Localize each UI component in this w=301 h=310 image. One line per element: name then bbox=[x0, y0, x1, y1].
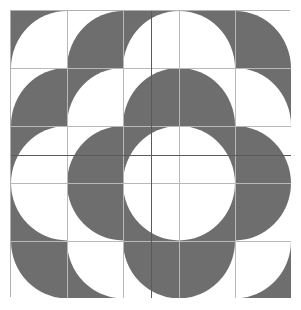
tile-r3-c1 bbox=[67, 183, 123, 240]
quarter-circle-arc bbox=[67, 68, 123, 125]
tile-r2-c1 bbox=[67, 126, 123, 183]
tile-r0-c2 bbox=[123, 11, 179, 68]
tile-r2-c0 bbox=[11, 126, 67, 183]
tile-r1-c0 bbox=[11, 68, 67, 125]
quarter-circle-arc bbox=[179, 11, 235, 68]
quarter-circle-arc bbox=[179, 126, 235, 183]
quarter-circle-arc bbox=[11, 241, 67, 298]
quarter-circle-arc bbox=[123, 241, 179, 298]
pattern-canvas bbox=[0, 0, 301, 310]
tile-r3-c0 bbox=[11, 183, 67, 240]
tile-r3-c2 bbox=[123, 183, 179, 240]
tile-r0-c0 bbox=[11, 11, 67, 68]
quarter-circle-arc bbox=[67, 183, 123, 240]
quarter-circle-arc bbox=[67, 11, 123, 68]
quarter-circle-arc bbox=[235, 11, 291, 68]
quarter-circle-arc bbox=[123, 68, 179, 125]
quarter-circle-arc bbox=[235, 183, 291, 240]
tile-r0-c4 bbox=[235, 11, 291, 68]
pattern-grid bbox=[10, 10, 290, 297]
quarter-circle-arc bbox=[235, 126, 291, 183]
tile-r4-c3 bbox=[179, 241, 235, 298]
tile-r1-c4 bbox=[235, 68, 291, 125]
tile-r1-c3 bbox=[179, 68, 235, 125]
tile-r3-c3 bbox=[179, 183, 235, 240]
quarter-circle-arc bbox=[123, 11, 179, 68]
quarter-circle-arc bbox=[11, 126, 67, 183]
quarter-circle-arc bbox=[11, 183, 67, 240]
quarter-circle-arc bbox=[11, 11, 67, 68]
quarter-circle-arc bbox=[179, 68, 235, 125]
tile-r2-c3 bbox=[179, 126, 235, 183]
tile-r4-c2 bbox=[123, 241, 179, 298]
quarter-circle-arc bbox=[179, 241, 235, 298]
tile-r4-c4 bbox=[235, 241, 291, 298]
quarter-circle-arc bbox=[179, 183, 235, 240]
quarter-circle-arc bbox=[67, 126, 123, 183]
tile-r4-c1 bbox=[67, 241, 123, 298]
quarter-circle-arc bbox=[11, 68, 67, 125]
tile-r4-c0 bbox=[11, 241, 67, 298]
tile-r1-c2 bbox=[123, 68, 179, 125]
tile-r1-c1 bbox=[67, 68, 123, 125]
tile-r2-c4 bbox=[235, 126, 291, 183]
tile-r2-c2 bbox=[123, 126, 179, 183]
tile-r3-c4 bbox=[235, 183, 291, 240]
quarter-circle-arc bbox=[235, 68, 291, 125]
tile-r0-c3 bbox=[179, 11, 235, 68]
quarter-circle-arc bbox=[235, 241, 291, 298]
quarter-circle-arc bbox=[67, 241, 123, 298]
quarter-circle-arc bbox=[123, 126, 179, 183]
quarter-circle-arc bbox=[123, 183, 179, 240]
tile-r0-c1 bbox=[67, 11, 123, 68]
